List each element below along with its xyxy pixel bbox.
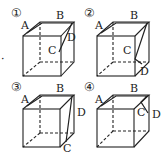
panel-2-label-d: D — [140, 65, 149, 78]
panel-4-number: ④ — [84, 80, 95, 94]
labels: ① A B C D ② A B C D ③ A B C D ④ A B C D … — [0, 0, 163, 161]
panel-1-label-c: C — [48, 44, 56, 57]
stray-dot: · — [1, 53, 5, 66]
panel-2-label-c: C — [123, 44, 131, 57]
panel-4-label-d: D — [152, 108, 161, 121]
panel-3-label-a: A — [21, 93, 29, 106]
panel-3-label-c: C — [63, 142, 71, 155]
panel-1-label-d: D — [67, 31, 76, 44]
panel-2-label-b: B — [130, 9, 138, 22]
panel-4-label-c: C — [137, 106, 145, 119]
panel-1-number: ① — [11, 6, 22, 20]
panel-1-label-a: A — [21, 19, 29, 32]
panel-3-label-d: D — [77, 106, 86, 119]
panel-2-number: ② — [84, 6, 95, 20]
panel-2-label-a: A — [95, 19, 103, 32]
panel-3-label-b: B — [56, 82, 64, 95]
panel-4-label-b: B — [130, 82, 138, 95]
panel-3-number: ③ — [11, 80, 22, 94]
panel-1-label-b: B — [56, 9, 64, 22]
panel-4-label-a: A — [95, 93, 103, 106]
